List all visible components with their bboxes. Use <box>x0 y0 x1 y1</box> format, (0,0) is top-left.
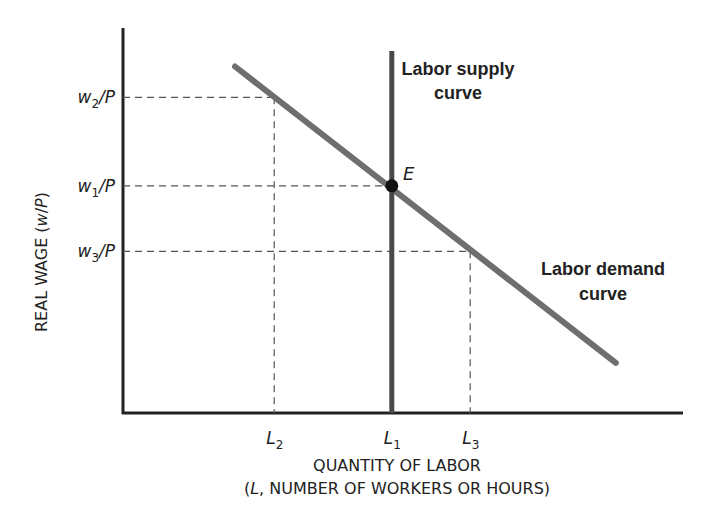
y-tick-label-w1: w1/P <box>77 176 115 200</box>
equilibrium-label: E <box>403 163 415 184</box>
demand-curve-label-line1: Labor demand <box>541 259 665 279</box>
x-tick-label-L1: L1 <box>384 428 401 452</box>
supply-curve-label-line1: Labor supply <box>401 59 514 79</box>
labor-demand-curve <box>235 67 616 363</box>
supply-curve-label-line2: curve <box>434 83 482 103</box>
demand-curve-label-line2: curve <box>579 284 627 304</box>
x-axis-title-line2: (L, NUMBER OF WORKERS OR HOURS) <box>244 479 550 498</box>
x-tick-label-L3: L3 <box>462 428 479 452</box>
equilibrium-point <box>385 179 398 192</box>
y-axis-title: REAL WAGE (w/P) <box>32 192 51 332</box>
y-tick-label-w3: w3/P <box>77 241 115 265</box>
x-tick-label-L2: L2 <box>266 428 283 452</box>
labor-market-diagram: w2/Pw1/Pw3/PL2L1L3 REAL WAGE (w/P) QUANT… <box>0 0 710 511</box>
x-axis-title-line1: QUANTITY OF LABOR <box>313 456 481 475</box>
y-tick-label-w2: w2/P <box>77 87 115 111</box>
